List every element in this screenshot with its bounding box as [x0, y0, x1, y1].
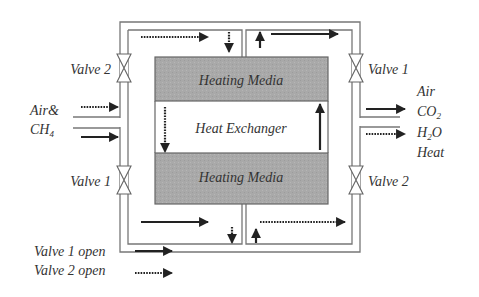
outlet-gap — [359, 118, 361, 126]
heat-exchanger-label: Heat Exchanger — [194, 121, 287, 136]
heating-media-top-label: Heating Media — [198, 73, 283, 88]
heat-exchanger-diagram: Heating Media Heat Exchanger Heating Med… — [0, 0, 479, 297]
legend: Valve 1 open Valve 2 open — [34, 244, 172, 278]
valve-right-top-icon — [349, 54, 363, 82]
outlet-label-co2: CO2 — [417, 104, 441, 121]
valve-right-top-label: Valve 1 — [368, 62, 409, 77]
legend-valve-2-label: Valve 2 open — [34, 263, 106, 278]
outlet-label-heat: Heat — [416, 145, 445, 160]
heating-media-bottom-label: Heating Media — [198, 170, 283, 185]
valve-left-top-icon — [117, 54, 131, 82]
outlet-label-air: Air — [416, 84, 435, 99]
valve-left-bottom-icon — [117, 166, 131, 194]
inlet-gap — [119, 118, 121, 127]
valve-right-bottom-icon — [349, 166, 363, 194]
inlet-label-line1: Air& — [29, 103, 59, 118]
legend-valve-1-label: Valve 1 open — [34, 244, 106, 259]
outlet-label-h2o: H2O — [416, 125, 442, 142]
valve-right-bottom-label: Valve 2 — [368, 174, 409, 189]
inlet-label-line2: CH4 — [30, 122, 54, 139]
valve-left-top-label: Valve 2 — [70, 62, 111, 77]
valve-left-bottom-label: Valve 1 — [70, 174, 111, 189]
inlet-pipe — [73, 117, 120, 128]
outlet-pipe — [360, 117, 400, 127]
